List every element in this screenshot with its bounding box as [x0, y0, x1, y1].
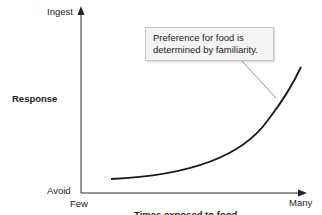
callout-line-2: determined by familiarity.: [153, 44, 273, 56]
x-tick-many: Many: [289, 197, 312, 208]
x-tick-few: Few: [70, 198, 88, 209]
x-axis-title: Times exposed to food: [134, 209, 237, 215]
y-tick-ingest: Ingest: [47, 6, 73, 17]
callout-leader-line: [242, 61, 276, 98]
annotation-callout: Preference for food is determined by fam…: [145, 27, 274, 61]
x-axis-arrow-icon: [298, 190, 307, 197]
callout-line-1: Preference for food is: [153, 32, 273, 44]
y-axis-arrow-icon: [78, 6, 85, 15]
y-axis-title: Response: [12, 93, 57, 104]
preference-curve: [111, 67, 301, 179]
y-tick-avoid: Avoid: [47, 185, 71, 196]
